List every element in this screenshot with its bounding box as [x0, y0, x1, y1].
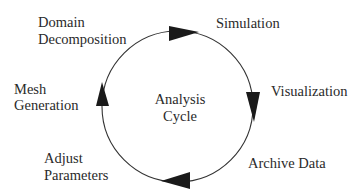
stage-adjust-parameters-line1: Adjust	[44, 150, 83, 166]
stage-simulation: Simulation	[216, 15, 280, 31]
analysis-cycle-diagram: Analysis Cycle Domain Decomposition Simu…	[0, 0, 358, 196]
stage-mesh-generation-line1: Mesh	[14, 81, 47, 97]
stage-visualization: Visualization	[271, 83, 348, 99]
stage-archive-data: Archive Data	[248, 155, 326, 171]
arrow-left-icon	[161, 172, 190, 189]
stage-mesh-generation-line2: Generation	[14, 97, 79, 113]
stage-domain-decomposition-line1: Domain	[38, 14, 85, 30]
stage-adjust-parameters-line2: Parameters	[44, 167, 109, 183]
arrow-down-icon	[246, 92, 260, 122]
center-label-line1: Analysis	[155, 91, 206, 107]
center-label-line2: Cycle	[163, 108, 197, 124]
stage-domain-decomposition-line2: Decomposition	[38, 31, 127, 47]
arrow-up-icon	[96, 82, 109, 106]
